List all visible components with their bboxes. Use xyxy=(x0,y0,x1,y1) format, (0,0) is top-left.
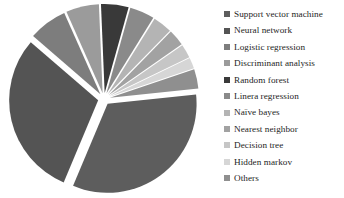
legend-label: Linera regression xyxy=(234,88,299,104)
legend-label: Hidden markov xyxy=(234,154,292,170)
legend-label: Logistic regression xyxy=(234,39,305,55)
legend-swatch-icon xyxy=(224,77,230,83)
legend-item-nearest-neighbor[interactable]: Nearest neighbor xyxy=(224,121,344,137)
legend-swatch-icon xyxy=(224,60,230,66)
legend-swatch-icon xyxy=(224,175,230,181)
legend-item-hidden-markov[interactable]: Hidden markov xyxy=(224,154,344,170)
legend-swatch-icon xyxy=(224,126,230,132)
legend-swatch-icon xyxy=(224,159,230,165)
pie-slice-group xyxy=(9,4,198,193)
legend-item-random-forest[interactable]: Random forest xyxy=(224,72,344,88)
legend-swatch-icon xyxy=(224,93,230,99)
legend-swatch-icon xyxy=(224,28,230,34)
legend-swatch-icon xyxy=(224,110,230,116)
legend-swatch-icon xyxy=(224,11,230,17)
legend-swatch-icon xyxy=(224,44,230,50)
pie-chart-svg xyxy=(0,0,212,198)
legend-item-discriminant-analysis[interactable]: Discriminant analysis xyxy=(224,55,344,71)
legend-label: Others xyxy=(234,170,259,186)
legend-item-naive-bayes[interactable]: Naïve bayes xyxy=(224,104,344,120)
legend-label: Discriminant analysis xyxy=(234,55,315,71)
legend-item-support-vector-machine[interactable]: Support vector machine xyxy=(224,6,344,22)
legend-item-linera-regression[interactable]: Linera regression xyxy=(224,88,344,104)
pie-chart-plot-area xyxy=(0,0,212,198)
legend-label: Support vector machine xyxy=(234,6,323,22)
legend-item-others[interactable]: Others xyxy=(224,170,344,186)
legend-label: Decision tree xyxy=(234,137,283,153)
chart-legend: Support vector machine Neural network Lo… xyxy=(224,6,344,192)
legend-item-logistic-regression[interactable]: Logistic regression xyxy=(224,39,344,55)
legend-label: Naïve bayes xyxy=(234,104,280,120)
legend-label: Neural network xyxy=(234,22,292,38)
legend-label: Random forest xyxy=(234,72,289,88)
legend-item-neural-network[interactable]: Neural network xyxy=(224,22,344,38)
legend-label: Nearest neighbor xyxy=(234,121,298,137)
pie-chart-figure: Support vector machine Neural network Lo… xyxy=(0,0,344,198)
legend-item-decision-tree[interactable]: Decision tree xyxy=(224,137,344,153)
legend-swatch-icon xyxy=(224,142,230,148)
